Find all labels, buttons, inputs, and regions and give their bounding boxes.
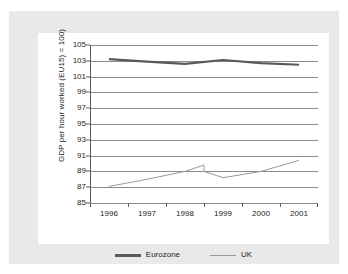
x-axis-tick-mark — [242, 203, 243, 207]
chart-card: GDP per hour worked (EU15) = 100) 105103… — [9, 11, 339, 264]
y-axis-tick-label: 99 — [77, 88, 86, 96]
y-axis-tick-label: 87 — [77, 183, 86, 191]
x-axis-tick-mark — [90, 203, 91, 207]
x-axis-tick-label: 1999 — [214, 210, 232, 218]
y-axis-tick-label: 91 — [77, 152, 86, 160]
x-axis-tick-mark — [166, 203, 167, 207]
x-axis-tick-label: 2000 — [252, 210, 270, 218]
chart-legend: EurozoneUK — [38, 251, 329, 259]
series-line-uk — [109, 160, 299, 186]
plot-area: 1051031019997959391898785 19961997199819… — [90, 45, 318, 203]
chart-panel: GDP per hour worked (EU15) = 100) 105103… — [38, 33, 329, 244]
legend-swatch-icon — [210, 255, 236, 256]
y-axis-tick-label: 93 — [77, 136, 86, 144]
y-axis-tick-label: 89 — [77, 167, 86, 175]
y-axis-tick-label: 105 — [73, 41, 86, 49]
x-axis-tick-mark — [204, 203, 205, 207]
legend-label: Eurozone — [146, 251, 180, 259]
x-axis-tick-mark — [317, 203, 318, 207]
x-axis-tick-label: 1997 — [138, 210, 156, 218]
y-axis-title: GDP per hour worked (EU15) = 100) — [57, 21, 66, 171]
legend-item-uk[interactable]: UK — [210, 251, 252, 259]
y-axis-tick-label: 101 — [73, 73, 86, 81]
y-axis-tick-label: 85 — [77, 199, 86, 207]
x-axis-tick-mark — [280, 203, 281, 207]
chart-screenshot: GDP per hour worked (EU15) = 100) 105103… — [0, 0, 348, 274]
legend-swatch-icon — [115, 254, 141, 257]
x-axis-tick-label: 2001 — [290, 210, 308, 218]
x-axis-tick-mark — [128, 203, 129, 207]
x-axis-tick-label: 1998 — [176, 210, 194, 218]
series-line-eurozone — [109, 59, 299, 65]
legend-label: UK — [241, 251, 252, 259]
y-axis-tick-label: 97 — [77, 104, 86, 112]
y-axis-tick-label: 95 — [77, 120, 86, 128]
series-lines — [90, 45, 318, 203]
y-axis-tick-label: 103 — [73, 57, 86, 65]
legend-item-eurozone[interactable]: Eurozone — [115, 251, 180, 259]
x-axis-tick-label: 1996 — [100, 210, 118, 218]
